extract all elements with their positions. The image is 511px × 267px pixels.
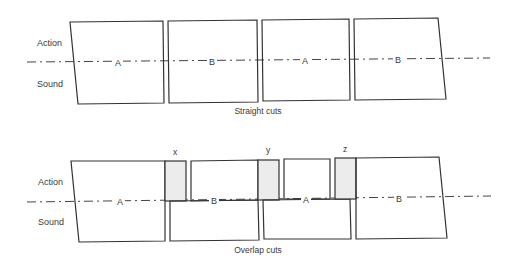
row-label-action: Action: [38, 177, 63, 187]
overlap-marker-x: x: [173, 147, 178, 157]
caption-overlap-cuts: Overlap cuts: [234, 245, 282, 255]
straight-cuts-panel: A B A B Action Sound Straight cuts: [27, 18, 490, 116]
segment-label-b2: B: [396, 194, 402, 204]
segment-label-a2: A: [302, 56, 308, 66]
film-cut-diagram: A B A B Action Sound Straight cuts: [0, 0, 511, 267]
row-label-action: Action: [37, 38, 62, 48]
timeline-track: [27, 58, 490, 62]
shot-frame-b1-action: [191, 160, 258, 201]
row-label-sound: Sound: [38, 217, 64, 227]
overlap-marker-z: z: [343, 144, 347, 154]
overlap-region-y: [258, 160, 279, 200]
caption-straight-cuts: Straight cuts: [234, 106, 281, 116]
segment-label-b2: B: [395, 55, 401, 65]
overlap-cuts-panel: A B A B x y z Action Sound Overlap cuts: [27, 144, 491, 255]
overlap-region-z: [335, 158, 356, 199]
segment-label-b1: B: [211, 196, 217, 206]
segment-label-a1: A: [117, 197, 123, 207]
row-label-sound: Sound: [37, 79, 63, 89]
segment-label-b1: B: [209, 57, 215, 67]
overlap-marker-y: y: [266, 145, 271, 155]
overlap-region-x: [165, 161, 186, 201]
segment-label-a1: A: [115, 58, 121, 68]
shot-frame-a2-action: [284, 159, 330, 199]
segment-label-a2: A: [303, 195, 309, 205]
